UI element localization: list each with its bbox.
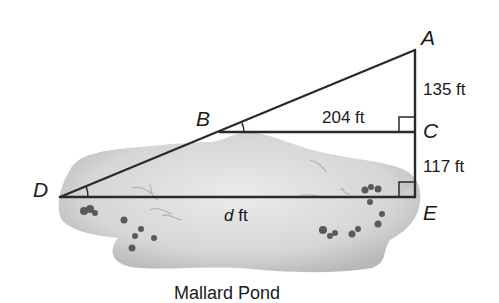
diagram-caption: Mallard Pond: [174, 284, 280, 302]
point-label-E: E: [423, 202, 437, 223]
pond-shape: [59, 132, 421, 272]
point-label-A: A: [421, 27, 435, 48]
right-angle-C: [399, 117, 415, 132]
diagram-canvas: A B C D E 135 ft 204 ft 117 ft d ft Mall…: [0, 0, 499, 303]
measurement-CE: 117 ft: [423, 158, 464, 175]
measurement-BC: 204 ft: [322, 109, 365, 126]
unit-ft: ft: [233, 206, 247, 225]
measurement-AC: 135 ft: [423, 81, 466, 98]
point-label-C: C: [423, 120, 438, 141]
measurement-DE: d ft: [224, 207, 248, 224]
point-label-D: D: [33, 179, 48, 200]
angle-mark-B: [242, 123, 244, 132]
point-label-B: B: [196, 108, 210, 129]
